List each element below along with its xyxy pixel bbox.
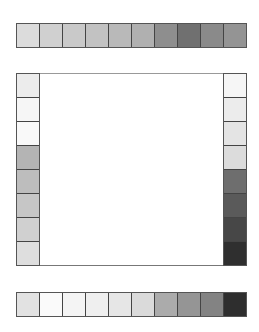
gray-swatch-8 <box>178 293 201 316</box>
gray-swatch-2 <box>40 24 63 47</box>
gray-swatch-9 <box>201 293 224 316</box>
gray-swatch-9 <box>201 24 224 47</box>
bottom-grayscale-strip <box>16 292 247 317</box>
gray-swatch-8 <box>178 24 201 47</box>
top-grayscale-strip <box>16 23 247 48</box>
gray-swatch-7 <box>155 24 178 47</box>
left-grayscale-column <box>16 73 40 266</box>
gray-swatch-10 <box>224 293 246 316</box>
gray-swatch-7 <box>224 218 246 242</box>
gray-swatch-10 <box>224 24 246 47</box>
gray-swatch-6 <box>132 24 155 47</box>
gray-swatch-5 <box>109 293 132 316</box>
gray-swatch-3 <box>63 24 86 47</box>
gray-swatch-3 <box>17 122 39 146</box>
gray-swatch-3 <box>224 122 246 146</box>
gray-swatch-8 <box>17 242 39 265</box>
gray-swatch-6 <box>132 293 155 316</box>
gray-swatch-4 <box>86 293 109 316</box>
gray-swatch-1 <box>224 74 246 98</box>
gray-swatch-8 <box>224 242 246 265</box>
gray-swatch-1 <box>17 293 40 316</box>
gray-swatch-1 <box>17 24 40 47</box>
center-frame <box>16 73 247 266</box>
gray-swatch-4 <box>86 24 109 47</box>
gray-swatch-7 <box>17 218 39 242</box>
gray-swatch-4 <box>224 146 246 170</box>
gray-swatch-4 <box>17 146 39 170</box>
gray-swatch-6 <box>224 194 246 218</box>
gray-swatch-7 <box>155 293 178 316</box>
gray-swatch-1 <box>17 74 39 98</box>
gray-swatch-5 <box>17 170 39 194</box>
gray-swatch-2 <box>17 98 39 122</box>
gray-swatch-3 <box>63 293 86 316</box>
gray-swatch-2 <box>40 293 63 316</box>
gray-swatch-6 <box>17 194 39 218</box>
gray-swatch-2 <box>224 98 246 122</box>
gray-swatch-5 <box>109 24 132 47</box>
gray-swatch-5 <box>224 170 246 194</box>
right-grayscale-column <box>223 73 247 266</box>
